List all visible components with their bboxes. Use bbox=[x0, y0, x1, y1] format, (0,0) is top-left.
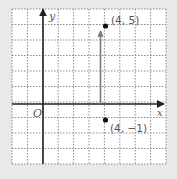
y-axis-label: y bbox=[49, 11, 55, 22]
origin-label: O bbox=[33, 108, 42, 119]
grid-background bbox=[12, 9, 166, 164]
point-label-4-5: (4, 5) bbox=[111, 15, 139, 26]
x-axis-label: x bbox=[157, 108, 163, 118]
point-4-neg1 bbox=[103, 117, 108, 122]
point-label-4-neg1: (4, −1) bbox=[110, 123, 147, 134]
coordinate-plane bbox=[0, 0, 177, 179]
point-4-5 bbox=[103, 23, 108, 28]
